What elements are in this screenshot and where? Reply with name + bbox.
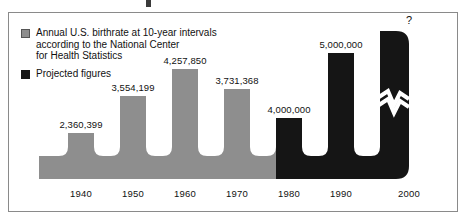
value-label-2000-unknown: ? [406,14,412,26]
x-tick-2000: 2000 [398,188,420,199]
x-tick-1980: 1980 [278,188,300,199]
x-tick-1940: 1940 [70,188,92,199]
x-tick-1950: 1950 [122,188,144,199]
x-tick-1990: 1990 [330,188,352,199]
bars-graphic [9,13,459,213]
value-label-1970: 3,731,368 [215,75,258,86]
value-label-1960: 4,257,850 [163,55,206,66]
birthrate-ribbon [39,31,459,179]
chart-frame: Annual U.S. birthrate at 10-year interva… [8,12,458,212]
value-label-1990: 5,000,000 [319,39,362,50]
chart-screenshot: Annual U.S. birthrate at 10-year interva… [0,0,467,222]
value-label-1950: 3,554,199 [111,82,154,93]
value-label-1940: 2,360,399 [59,119,102,130]
value-label-1980: 4,000,000 [267,104,310,115]
x-tick-1970: 1970 [226,188,248,199]
plot-area: 2,360,399 3,554,199 4,257,850 3,731,368 … [9,13,459,213]
x-tick-1960: 1960 [174,188,196,199]
cropped-title-remnant [146,0,151,7]
